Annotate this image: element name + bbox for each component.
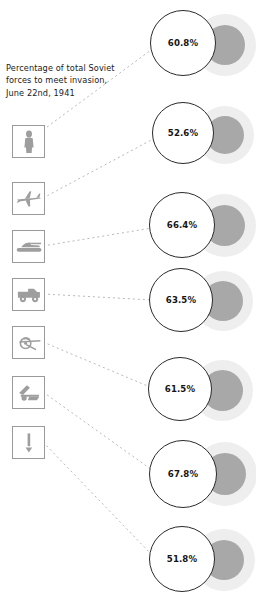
connector-line-4 [43,294,152,300]
chart-title: Percentage of total Soviet forces to mee… [6,62,132,99]
tank-icon [16,239,42,254]
percentage-label: 61.5% [165,384,195,394]
connector-line-5 [43,342,150,387]
soldier-icon [19,130,39,154]
bubble-group-5: 61.5% [145,355,256,433]
percentage-bubble[interactable]: 61.5% [148,357,212,421]
icon-box-tanks[interactable] [12,230,45,263]
bubble-group-3: 66.4% [147,190,256,270]
percentage-bubble[interactable]: 67.8% [149,440,217,508]
title-line-1: Percentage of total Soviet [6,62,132,74]
percentage-bubble[interactable]: 51.8% [149,526,215,592]
bubble-group-1: 60.8% [150,8,256,86]
icon-box-howitzers[interactable] [12,376,45,409]
icon-box-trucks[interactable] [12,278,45,311]
percentage-label: 60.8% [168,38,198,48]
percentage-bubble[interactable]: 66.4% [149,192,215,258]
bubble-group-6: 67.8% [147,438,256,520]
icon-box-personnel[interactable] [12,125,45,158]
percentage-bubble[interactable]: 52.6% [152,102,214,164]
field-gun-icon [16,333,42,352]
bubble-group-4: 63.5% [147,266,256,344]
percentage-bubble[interactable]: 63.5% [149,268,213,332]
percentage-label: 67.8% [168,469,198,479]
connector-line-7 [43,442,152,555]
howitzer-icon [16,383,41,402]
aircraft-icon [16,190,42,208]
bubble-group-2: 52.6% [150,100,256,178]
mortar-icon [23,432,35,454]
percentage-label: 66.4% [167,220,197,230]
icon-box-mortars[interactable] [12,426,45,459]
bubble-group-7: 51.8% [147,524,256,606]
connector-line-6 [43,392,152,470]
percentage-label: 51.8% [167,554,197,564]
truck-icon [16,286,41,303]
title-line-3: June 22nd, 1941 [6,87,132,99]
connector-line-2 [43,138,155,198]
icon-box-field-guns[interactable] [12,326,45,359]
icon-box-aircraft[interactable] [12,182,45,215]
percentage-bubble[interactable]: 60.8% [150,10,216,76]
connector-line-3 [43,228,152,246]
percentage-label: 63.5% [166,295,196,305]
percentage-label: 52.6% [168,128,198,138]
title-line-2: forces to meet invasion, [6,74,132,86]
infographic-root: Percentage of total Soviet forces to mee… [0,0,256,609]
